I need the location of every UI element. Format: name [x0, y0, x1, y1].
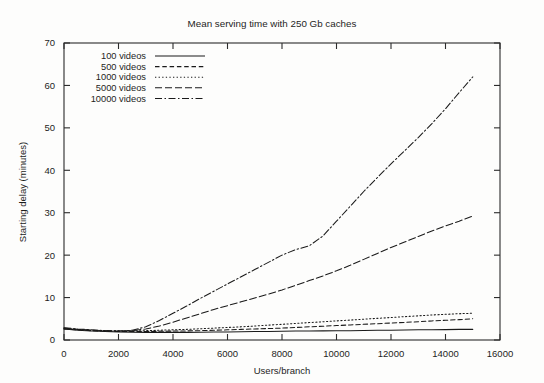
y-tick-label: 20 — [44, 250, 55, 261]
series-line — [64, 216, 473, 331]
x-tick-label: 2000 — [108, 348, 129, 359]
legend-label: 100 videos — [101, 51, 146, 61]
x-tick-label: 14000 — [432, 348, 458, 359]
x-tick-label: 16000 — [487, 348, 513, 359]
y-tick-label: 60 — [44, 80, 55, 91]
x-tick-label: 4000 — [162, 348, 183, 359]
legend-label: 5000 videos — [96, 83, 146, 93]
legend-label: 500 videos — [101, 62, 146, 72]
series-line — [64, 77, 473, 331]
x-tick-label: 10000 — [323, 348, 349, 359]
x-tick-label: 8000 — [271, 348, 292, 359]
series-lines — [64, 77, 473, 332]
chart-page: Mean serving time with 250 Gb caches 010… — [0, 0, 544, 383]
x-tick-label: 12000 — [378, 348, 404, 359]
x-tick-label: 6000 — [217, 348, 238, 359]
chart-title: Mean serving time with 250 Gb caches — [188, 18, 357, 29]
y-tick-label: 40 — [44, 165, 55, 176]
legend-label: 1000 videos — [96, 72, 146, 82]
x-tick-label: 0 — [61, 348, 66, 359]
y-tick-label: 0 — [50, 334, 55, 345]
y-tick-label: 10 — [44, 292, 55, 303]
y-tick-label: 50 — [44, 122, 55, 133]
y-axis-title: Starting delay (minutes) — [17, 142, 28, 242]
x-axis-title: Users/branch — [254, 365, 311, 376]
legend-label: 10000 videos — [91, 94, 147, 104]
y-tick-label: 70 — [44, 37, 55, 48]
chart-legend: 100 videos500 videos1000 videos5000 vide… — [91, 51, 205, 103]
y-tick-label: 30 — [44, 207, 55, 218]
line-chart: Mean serving time with 250 Gb caches 010… — [0, 0, 544, 383]
